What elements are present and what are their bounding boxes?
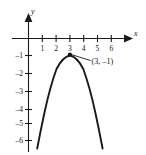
- y-tick-label-minus2: –2: [14, 69, 23, 78]
- y-axis-label: y: [30, 7, 35, 16]
- y-tick-label-minus1: –1: [14, 51, 23, 60]
- y-tick-label-minus5: –5: [14, 119, 23, 128]
- x-axis-label: x: [133, 29, 138, 38]
- vertex-point-marker: [68, 53, 72, 57]
- y-tick-label-minus4: –4: [14, 105, 23, 114]
- x-tick-label-6: 6: [109, 44, 113, 53]
- x-tick-label-2: 2: [54, 44, 58, 53]
- parabola-figure: 1 2 3 4 5 6 –1 –2 –3 –4 –5 –6 x y (3, –1…: [0, 0, 146, 155]
- y-tick-label-minus3: –3: [14, 87, 23, 96]
- x-axis-arrow-icon: [124, 35, 133, 43]
- x-tick-label-5: 5: [96, 44, 100, 53]
- plot-canvas: 1 2 3 4 5 6 –1 –2 –3 –4 –5 –6 x y (3, –1…: [0, 0, 146, 155]
- vertex-coordinate-label: (3, –1): [92, 57, 114, 66]
- y-tick-label-minus6: –6: [14, 136, 23, 145]
- x-tick-label-1: 1: [40, 44, 44, 53]
- x-tick-label-3: 3: [68, 44, 72, 53]
- parabola-curve: [37, 56, 102, 149]
- x-tick-label-4: 4: [82, 44, 86, 53]
